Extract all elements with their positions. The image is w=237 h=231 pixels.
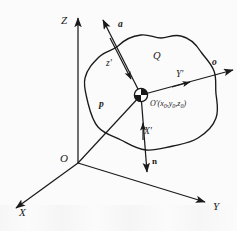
coord-x-sub: 0 (164, 103, 167, 109)
label-local-origin-coordinates: O'(x0,y0,z0) (150, 100, 186, 108)
coord-z-sub: 0 (180, 103, 183, 109)
label-region-q: Q (153, 51, 161, 62)
label-axis-y-prime: Y' (176, 70, 183, 80)
label-vector-p: p (99, 100, 104, 110)
label-axis-y: Y (213, 201, 219, 212)
local-origin-marker (134, 88, 147, 101)
label-vector-o: o (212, 58, 217, 68)
figure-canvas: Z O X Y a o n p Q z' Y' X' O'(x0,y0,z0) (0, 0, 237, 231)
diagram-vector-graphics (0, 0, 237, 231)
label-vector-n: n (152, 157, 157, 166)
axis-y-global (78, 163, 205, 202)
coord-y-sub: 0 (172, 103, 175, 109)
local-origin-symbol: O' (150, 99, 158, 108)
label-axis-x-prime: X' (144, 127, 152, 137)
local-origin-paren-close: ) (183, 99, 186, 108)
label-vector-a: a (118, 20, 123, 30)
axis-y-prime-local (172, 82, 190, 87)
axis-x-global (16, 163, 78, 208)
vector-p-position (78, 95, 141, 163)
label-origin-o: O (60, 153, 68, 164)
label-axis-z-prime: z' (106, 59, 112, 69)
label-axis-z: Z (61, 15, 67, 26)
label-axis-x: X (19, 207, 26, 218)
